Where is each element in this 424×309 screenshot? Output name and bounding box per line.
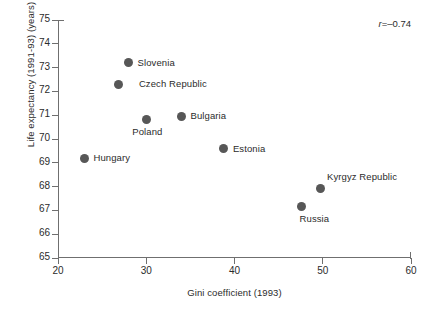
y-tick-mark bbox=[52, 43, 58, 44]
x-axis-label: Gini coefficient (1993) bbox=[58, 287, 411, 298]
y-tick-mark bbox=[52, 115, 58, 116]
y-tick-mark bbox=[52, 67, 58, 68]
scatter-chart-figure: Life expectancy (1991-93) (years) Gini c… bbox=[0, 0, 424, 309]
y-tick-mark bbox=[52, 162, 58, 163]
x-tick-label: 20 bbox=[38, 265, 78, 276]
y-tick-mark bbox=[52, 234, 58, 235]
data-point-marker bbox=[177, 112, 186, 121]
y-tick-mark bbox=[52, 186, 58, 187]
cropped-caption-sliver bbox=[0, 0, 424, 3]
x-tick-label: 60 bbox=[391, 265, 424, 276]
data-point-marker bbox=[80, 154, 89, 163]
y-tick-mark bbox=[52, 139, 58, 140]
x-tick-label: 50 bbox=[303, 265, 343, 276]
y-tick-label: 65 bbox=[22, 251, 50, 262]
data-point-label: Bulgaria bbox=[191, 110, 227, 121]
y-tick-mark bbox=[52, 20, 58, 21]
y-axis-top-cap bbox=[58, 20, 64, 21]
y-tick-label: 69 bbox=[22, 156, 50, 167]
data-point-label: Poland bbox=[132, 126, 162, 137]
y-tick-label: 68 bbox=[22, 180, 50, 191]
data-point-label: Hungary bbox=[93, 152, 130, 163]
y-tick-label: 67 bbox=[22, 203, 50, 214]
y-tick-label: 74 bbox=[22, 37, 50, 48]
x-tick-mark bbox=[322, 258, 323, 264]
y-tick-mark bbox=[52, 210, 58, 211]
data-point-label: Czech Republic bbox=[139, 78, 207, 89]
plot-area bbox=[58, 20, 411, 258]
x-tick-mark bbox=[411, 258, 412, 264]
data-point-label: Estonia bbox=[233, 143, 265, 154]
data-point-label: Slovenia bbox=[138, 57, 175, 68]
x-tick-label: 40 bbox=[215, 265, 255, 276]
x-tick-mark bbox=[234, 258, 235, 264]
y-tick-label: 70 bbox=[22, 132, 50, 143]
y-tick-label: 75 bbox=[22, 13, 50, 24]
data-point-label: Russia bbox=[300, 213, 330, 224]
correlation-annotation: r=–0.74 bbox=[379, 18, 412, 29]
x-tick-label: 30 bbox=[126, 265, 166, 276]
y-tick-mark bbox=[52, 91, 58, 92]
y-tick-label: 72 bbox=[22, 84, 50, 95]
y-tick-label: 66 bbox=[22, 227, 50, 238]
x-tick-mark bbox=[58, 258, 59, 264]
y-tick-label: 71 bbox=[22, 108, 50, 119]
data-point-label: Kyrgyz Republic bbox=[327, 171, 397, 182]
x-tick-mark bbox=[146, 258, 147, 264]
y-tick-label: 73 bbox=[22, 61, 50, 72]
correlation-value: =–0.74 bbox=[382, 18, 411, 29]
